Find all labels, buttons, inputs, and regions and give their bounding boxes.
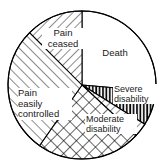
pie-chart-svg: [0, 0, 165, 165]
pie-slices: [8, 11, 156, 159]
pie-slice: [82, 11, 156, 91]
pie-chart-figure: Death Pain ceased Pain easily controlled…: [0, 0, 165, 165]
